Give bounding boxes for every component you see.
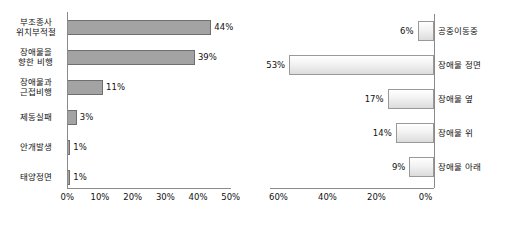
bar-row: 부조종사 위치부적절44% xyxy=(0,12,252,42)
category-label: 장애물 정면 xyxy=(438,60,504,71)
category-label: 태양정면 xyxy=(5,172,67,183)
bar-and-value: 44% xyxy=(67,12,233,42)
axis-tick: 30% xyxy=(149,192,182,202)
bar xyxy=(67,80,103,95)
bar-row: 17%장애물 옆 xyxy=(252,82,505,116)
category-label: 장애물 아래 xyxy=(438,162,504,173)
bar-row: 안개발생1% xyxy=(0,132,252,162)
bar-row: 6%공중이동중 xyxy=(252,14,505,48)
bar xyxy=(67,110,77,125)
value-label: 1% xyxy=(73,142,87,152)
axis-tick: 40% xyxy=(303,192,352,202)
axis-tick: 10% xyxy=(84,192,117,202)
bar-chart-right: 6%공중이동중53%장애물 정면17%장애물 옆14%장애물 위9%장애물 아래… xyxy=(252,0,505,226)
value-label: 11% xyxy=(106,82,125,92)
value-label: 6% xyxy=(400,26,414,36)
left-category-axis xyxy=(67,188,231,189)
bar-and-value: 53% xyxy=(252,48,434,82)
left-value-axis xyxy=(67,12,68,188)
left-plot-area: 부조종사 위치부적절44%장애물을 향한 비행39%장애물과 근접비행11%제동… xyxy=(0,0,252,226)
right-value-axis xyxy=(434,14,435,188)
value-label: 44% xyxy=(214,22,233,32)
left-tick-labels: 0%10%20%30%40%50% xyxy=(51,192,247,202)
category-label: 장애물과 근접비행 xyxy=(5,77,67,98)
bar-and-value: 17% xyxy=(252,82,434,116)
axis-tick: 40% xyxy=(182,192,215,202)
bar-and-value: 3% xyxy=(67,102,93,132)
bar-and-value: 11% xyxy=(67,72,125,102)
bar xyxy=(67,50,195,65)
bar-and-value: 1% xyxy=(67,132,87,162)
right-plot-area: 6%공중이동중53%장애물 정면17%장애물 옆14%장애물 위9%장애물 아래… xyxy=(252,0,505,226)
bar-row: 53%장애물 정면 xyxy=(252,48,505,82)
value-label: 1% xyxy=(73,172,87,182)
bar-and-value: 6% xyxy=(252,14,434,48)
bar-row: 14%장애물 위 xyxy=(252,116,505,150)
bar-chart-left: 부조종사 위치부적절44%장애물을 향한 비행39%장애물과 근접비행11%제동… xyxy=(0,0,252,226)
axis-tick: 20% xyxy=(352,192,401,202)
axis-tick: 20% xyxy=(116,192,149,202)
bar xyxy=(418,21,434,41)
bar-and-value: 14% xyxy=(252,116,434,150)
bar xyxy=(289,55,434,75)
axis-tick: 60% xyxy=(254,192,303,202)
axis-tick: 50% xyxy=(214,192,247,202)
bar-row: 장애물을 향한 비행39% xyxy=(0,42,252,72)
bar xyxy=(388,89,434,109)
axis-tick: 0% xyxy=(401,192,450,202)
category-label: 부조종사 위치부적절 xyxy=(5,17,67,38)
bar xyxy=(396,123,434,143)
value-label: 17% xyxy=(365,94,384,104)
value-label: 39% xyxy=(198,52,217,62)
category-label: 제동실패 xyxy=(5,112,67,123)
bar-row: 제동실패3% xyxy=(0,102,252,132)
value-label: 53% xyxy=(266,60,285,70)
category-label: 장애물 위 xyxy=(438,128,504,139)
bar-and-value: 39% xyxy=(67,42,217,72)
axis-tick: 0% xyxy=(51,192,84,202)
value-label: 14% xyxy=(373,128,392,138)
bar-row: 장애물과 근접비행11% xyxy=(0,72,252,102)
value-label: 3% xyxy=(80,112,94,122)
category-label: 안개발생 xyxy=(5,142,67,153)
value-label: 9% xyxy=(392,162,406,172)
bar-row: 9%장애물 아래 xyxy=(252,150,505,184)
right-tick-labels: 60%40%20%0% xyxy=(254,192,450,202)
category-label: 장애물 옆 xyxy=(438,94,504,105)
category-label: 공중이동중 xyxy=(438,26,504,37)
right-category-axis xyxy=(270,188,434,189)
bar xyxy=(409,157,434,177)
bar-and-value: 9% xyxy=(252,150,434,184)
category-label: 장애물을 향한 비행 xyxy=(5,47,67,68)
bar xyxy=(67,20,211,35)
figure-container: 부조종사 위치부적절44%장애물을 향한 비행39%장애물과 근접비행11%제동… xyxy=(0,0,505,226)
